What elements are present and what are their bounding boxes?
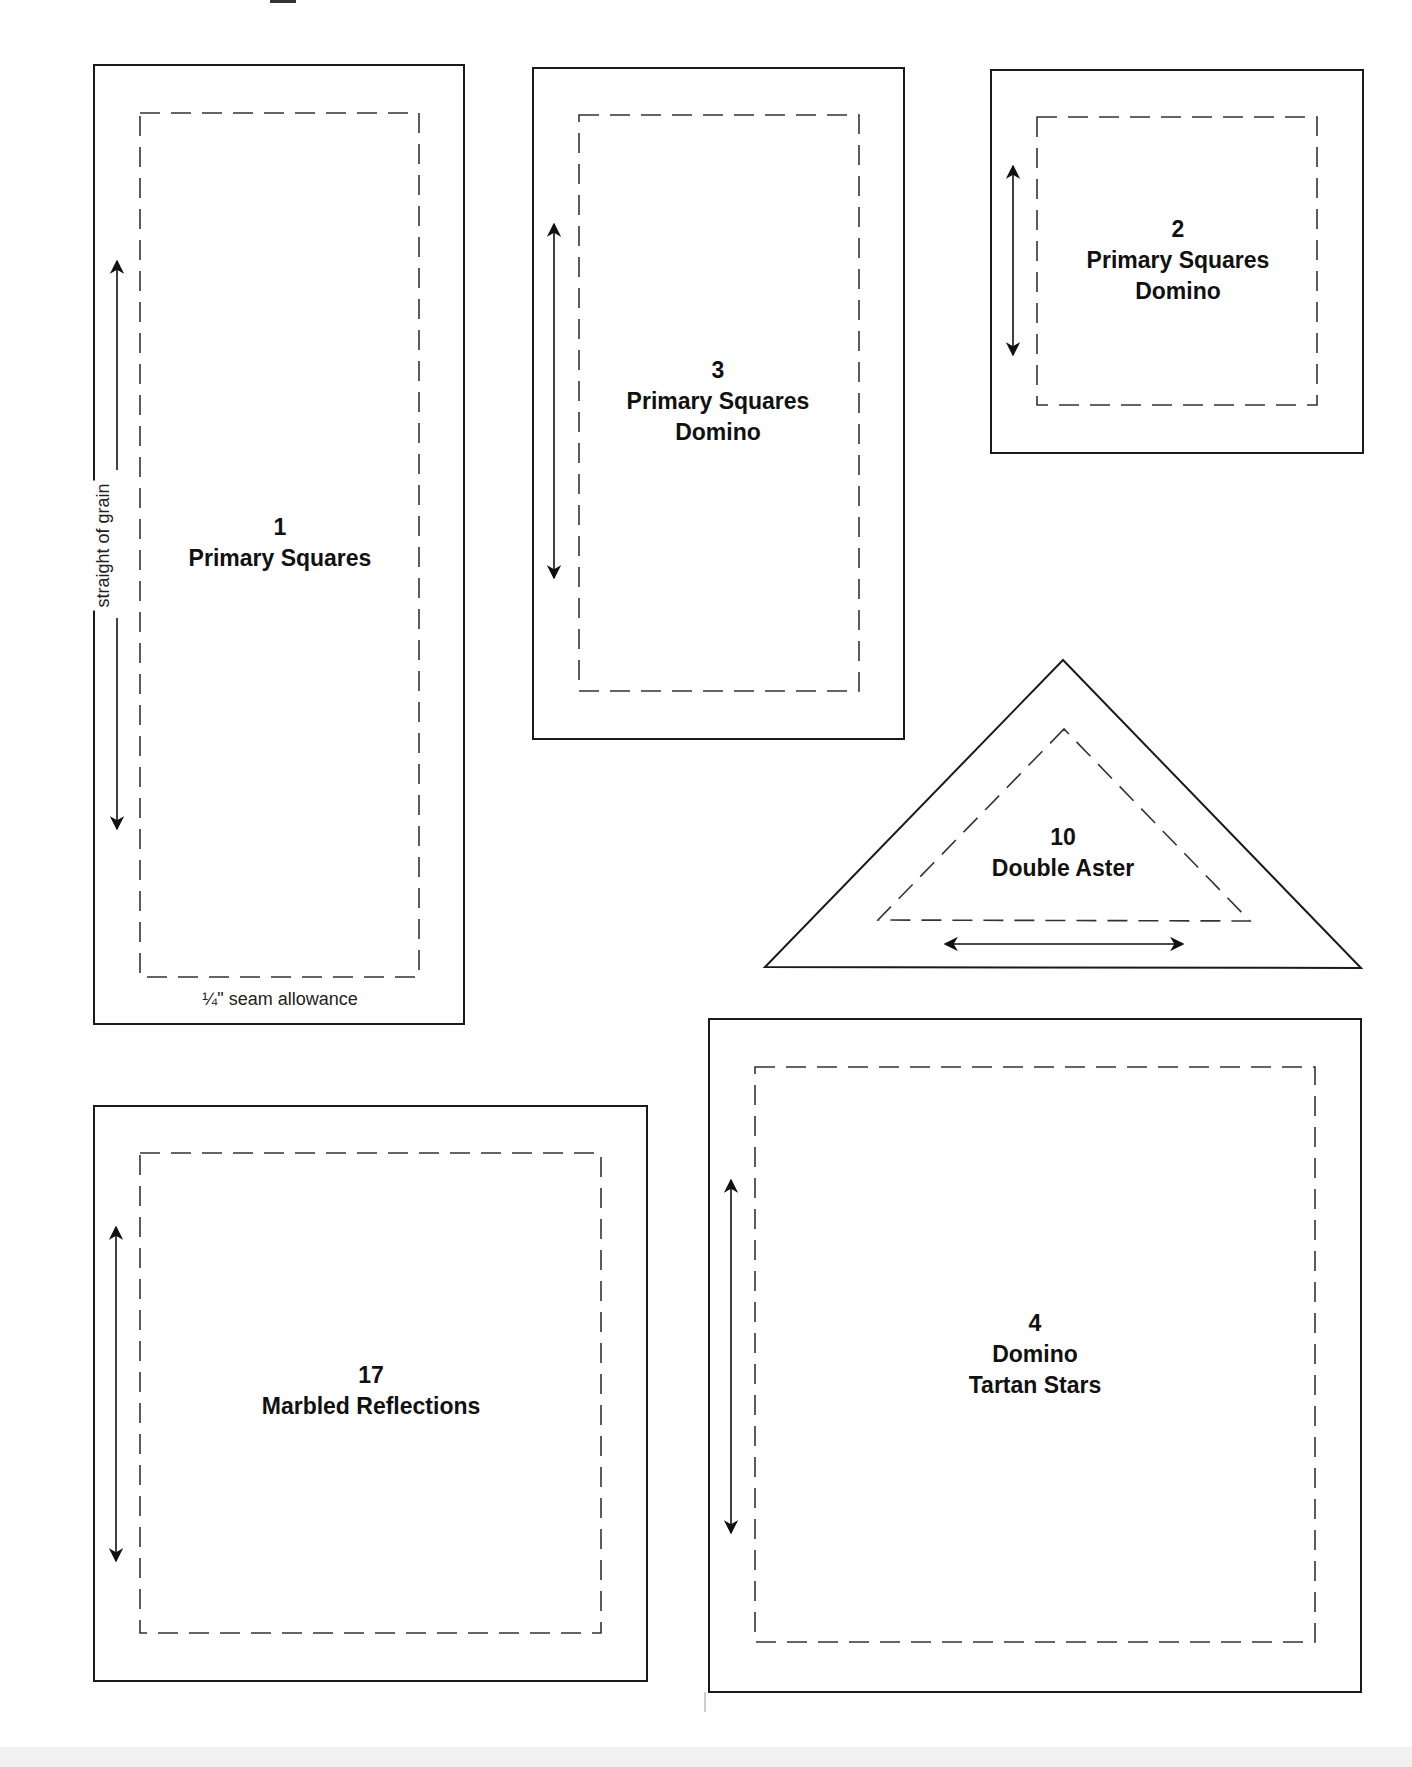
template-2-label: 2 Primary Squares Domino (1087, 214, 1270, 307)
template-name: Primary Squares (627, 386, 810, 417)
template-name: Marbled Reflections (262, 1391, 481, 1422)
template-number: 3 (627, 355, 810, 386)
template-number: 1 (189, 512, 372, 543)
template-name: Double Aster (992, 853, 1134, 884)
seam-allowance-note: ¼" seam allowance (202, 989, 357, 1010)
template-1-label: 1 Primary Squares (189, 512, 372, 574)
template-number: 2 (1087, 214, 1270, 245)
template-page: 1 Primary Squares straight of grain ¼" s… (0, 0, 1412, 1767)
template-name: Domino (627, 417, 810, 448)
template-4-label: 4 Domino Tartan Stars (969, 1308, 1102, 1401)
template-name: Domino (1087, 276, 1270, 307)
template-number: 10 (992, 822, 1134, 853)
template-name: Domino (969, 1339, 1102, 1370)
template-3-label: 3 Primary Squares Domino (627, 355, 810, 448)
template-10-shape (765, 660, 1361, 968)
grain-note: straight of grain (93, 480, 114, 610)
template-name: Tartan Stars (969, 1370, 1102, 1401)
template-number: 17 (262, 1360, 481, 1391)
template-10-label: 10 Double Aster (992, 822, 1134, 884)
template-name: Primary Squares (189, 543, 372, 574)
scan-edge (0, 1747, 1412, 1767)
template-17-label: 17 Marbled Reflections (262, 1360, 481, 1422)
template-number: 4 (969, 1308, 1102, 1339)
template-name: Primary Squares (1087, 245, 1270, 276)
